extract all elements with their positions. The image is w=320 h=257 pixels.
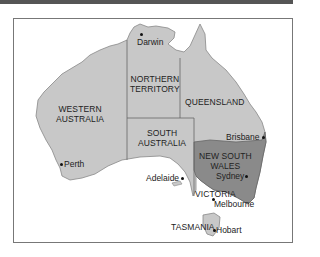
region-label-nt-line2: TERRITORY: [130, 84, 180, 94]
region-label-nsw-line1: NEW SOUTH: [199, 151, 252, 161]
city-label-perth: Perth: [64, 159, 84, 169]
region-label-wa-line2: AUSTRALIA: [56, 114, 104, 124]
city-label-melbourne: Melbourne: [214, 199, 254, 209]
region-label-sa-line1: SOUTH: [138, 128, 186, 138]
city-label-brisbane: Brisbane: [226, 132, 260, 142]
city-dot-adelaide: [181, 177, 184, 180]
city-label-hobart: Hobart: [216, 225, 242, 235]
region-label-nsw-line2: WALES: [199, 161, 252, 171]
region-label-qld: QUEENSLAND: [185, 97, 245, 107]
region-label-vic: VICTORIA: [195, 189, 236, 199]
region-label-nsw: NEW SOUTH WALES: [199, 151, 252, 171]
region-label-wa: WESTERN AUSTRALIA: [56, 104, 104, 124]
city-label-adelaide: Adelaide: [146, 173, 179, 183]
city-dot-sydney: [245, 175, 248, 178]
region-label-wa-line1: WESTERN: [56, 104, 104, 114]
region-label-sa-line2: AUSTRALIA: [138, 138, 186, 148]
city-dot-darwin: [140, 33, 143, 36]
city-dot-perth: [60, 163, 63, 166]
region-label-nt: NORTHERN TERRITORY: [130, 74, 180, 94]
region-label-sa: SOUTH AUSTRALIA: [138, 128, 186, 148]
city-label-darwin: Darwin: [137, 37, 163, 47]
region-label-nt-line1: NORTHERN: [130, 74, 180, 84]
city-label-sydney: Sydney: [216, 171, 244, 181]
region-label-tas: TASMANIA: [171, 222, 215, 232]
city-dot-brisbane: [262, 136, 265, 139]
